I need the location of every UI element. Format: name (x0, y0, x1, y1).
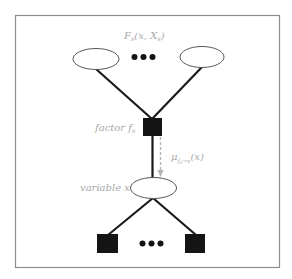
top-ellipsis-dots (132, 54, 156, 60)
variable-node-x (131, 178, 177, 199)
top-left-variable-node (73, 49, 119, 70)
top-right-variable-node (180, 47, 224, 68)
bottom-ellipsis-dots (140, 241, 164, 247)
diagram-frame (16, 16, 280, 268)
factor-graph-diagram: Fs(x, Xs) factor fs μfs→x(x) variable x (0, 0, 292, 279)
variable-label: variable x (80, 182, 130, 193)
factor-node-fs (143, 118, 162, 136)
bottom-left-factor-node (97, 234, 118, 253)
bottom-right-factor-node (185, 234, 205, 253)
